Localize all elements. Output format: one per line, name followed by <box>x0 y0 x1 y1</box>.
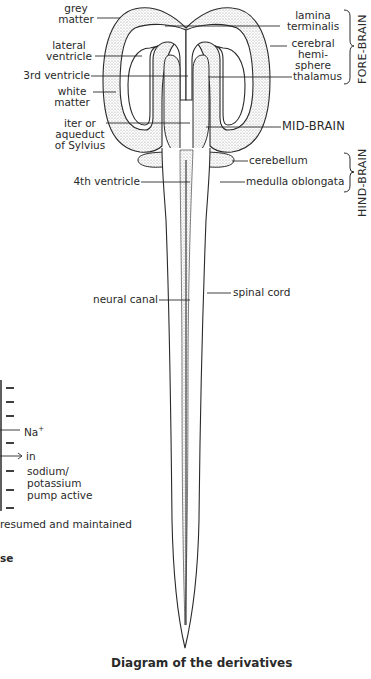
label-neural-canal: neural canal <box>60 294 158 305</box>
na-superscript: + <box>38 425 44 433</box>
na-text: Na <box>24 426 38 438</box>
label-line: of Sylvius <box>50 140 110 151</box>
label-medulla-oblongata: medulla oblongata <box>246 176 344 187</box>
thalamus-left <box>164 55 180 150</box>
label-third-ventricle: 3rd ventricle <box>10 70 90 81</box>
label-line: sodium/ <box>27 465 92 477</box>
label-line: potassium <box>27 477 92 489</box>
label-spinal-cord: spinal cord <box>233 287 290 298</box>
label-line: terminalis <box>283 21 343 32</box>
diagram-caption: Diagram of the derivatives <box>111 656 292 670</box>
label-fore-brain: FORE-BRAIN <box>356 14 369 84</box>
label-se-fragment: se <box>0 552 13 564</box>
label-na-ion: Na+ <box>24 423 44 438</box>
label-resumed-maintained: resumed and maintained <box>0 518 132 530</box>
fore-brain-bracket <box>344 10 354 84</box>
label-grey-matter: grey matter <box>52 3 100 25</box>
label-lateral-ventricle: lateral ventricle <box>41 40 97 62</box>
label-iter: iter or aqueduct of Sylvius <box>50 118 110 151</box>
label-line: matter <box>52 14 100 25</box>
hind-brain-bracket <box>344 153 354 192</box>
label-pump: sodium/ potassium pump active <box>27 465 92 501</box>
label-hind-brain: HIND-BRAIN <box>356 148 369 217</box>
label-fourth-ventricle: 4th ventricle <box>40 176 140 187</box>
label-thalamus: thalamus <box>293 71 342 82</box>
label-line: matter <box>50 97 94 108</box>
label-mid-brain: MID-BRAIN <box>282 121 345 132</box>
label-line: pump active <box>27 489 92 501</box>
label-line: ventricle <box>41 51 97 62</box>
label-lamina-terminalis: lamina terminalis <box>283 10 343 32</box>
label-cerebellum: cerebellum <box>249 155 308 166</box>
label-cerebral-hemisphere: cerebral hemi- sphere <box>287 38 339 71</box>
membrane-fragment <box>0 380 22 511</box>
thalamus-right <box>193 55 209 150</box>
label-in: in <box>26 450 36 462</box>
label-white-matter: white matter <box>50 86 94 108</box>
